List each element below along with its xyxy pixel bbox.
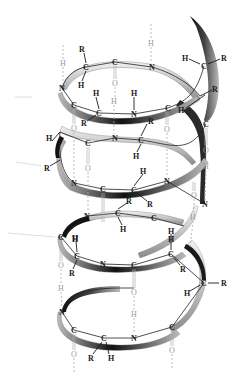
carbon-atom: C xyxy=(112,58,118,67)
side-chain-r: R xyxy=(180,265,186,274)
carbon-atom: C xyxy=(85,139,91,148)
carbon-atom: C xyxy=(83,63,89,72)
carbon-atom: C xyxy=(96,109,102,118)
carbon-atom: C xyxy=(203,120,209,129)
carbon-atom: C xyxy=(201,62,207,71)
oxygen-atom: O xyxy=(169,346,175,355)
carbon-atom: C xyxy=(71,101,77,110)
side-chain-r: R xyxy=(221,279,227,288)
carbon-atom: C xyxy=(131,261,137,270)
hydrogen-atom: H xyxy=(120,225,127,234)
oxygen-atom: O xyxy=(85,164,91,173)
carbon-atom: C xyxy=(100,185,106,194)
nitrogen-atom: N xyxy=(131,334,137,343)
oxygen-atom: O xyxy=(58,261,64,270)
hydrogen-atom: H xyxy=(182,54,189,63)
hydrogen-atom: H xyxy=(203,162,209,171)
side-chain-r: R xyxy=(79,45,85,54)
oxygen-atom: O xyxy=(71,350,77,359)
nitrogen-atom: N xyxy=(164,177,170,186)
oxygen-atom: O xyxy=(71,124,77,133)
oxygen-atom: O xyxy=(203,146,209,155)
oxygen-atom: O xyxy=(164,125,170,134)
nitrogen-atom: N xyxy=(59,84,65,93)
carbon-atom: C xyxy=(115,209,121,218)
carbon-atom: C xyxy=(101,334,107,343)
hydrogen-atom: H xyxy=(131,310,137,319)
nitrogen-atom: N xyxy=(202,200,208,209)
carbon-atom: C xyxy=(151,214,157,223)
carbon-atom: C xyxy=(58,233,64,242)
hydrogen-atom: H xyxy=(140,167,147,176)
side-chain-r: R xyxy=(126,197,132,206)
hydrogen-atom: H xyxy=(184,289,191,298)
carbon-atom: C xyxy=(74,252,80,261)
nitrogen-atom: N xyxy=(59,308,65,317)
hydrogen-atom: H xyxy=(78,81,85,90)
side-chain-r: R xyxy=(44,164,50,173)
oxygen-atom: O xyxy=(191,191,197,200)
hydrogen-atom: H xyxy=(131,89,138,98)
nitrogen-atom: N xyxy=(100,260,106,269)
carbon-atom: C xyxy=(168,250,174,259)
side-chain-r: R xyxy=(148,117,154,126)
side-chain-r: R xyxy=(221,54,227,63)
side-chain-r: R xyxy=(88,354,94,363)
side-chain-r: R xyxy=(69,269,75,278)
helix-canvas: HRCHCOHNHCRNCHCRHHNRCHRCOOHCNCHROOHNHNCC… xyxy=(0,0,242,387)
hydrogen-atom: H xyxy=(111,97,117,106)
carbon-atom: C xyxy=(138,136,144,145)
alpha-helix-diagram: HRCHCOHNHCRNCHCRHHNRCHRCOOHCNCHROOHNHNCC… xyxy=(0,0,242,387)
nitrogen-atom: N xyxy=(71,179,77,188)
carbon-atom: C xyxy=(131,186,137,195)
carbon-atom: C xyxy=(169,323,175,332)
nitrogen-atom: N xyxy=(131,110,137,119)
side-chain-r: R xyxy=(147,200,153,209)
nitrogen-atom: N xyxy=(112,134,118,143)
carbon-atom: C xyxy=(71,326,77,335)
hydrogen-atom: H xyxy=(72,235,79,244)
carbon-atom: C xyxy=(165,104,171,113)
hydrogen-atom: H xyxy=(178,106,185,115)
hydrogen-atom: H xyxy=(93,89,100,98)
side-chain-r: R xyxy=(81,119,87,128)
hydrogen-atom: H xyxy=(148,39,154,48)
oxygen-atom: O xyxy=(112,79,118,88)
hydrogen-atom: H xyxy=(46,134,53,143)
carbon-atom: C xyxy=(201,279,207,288)
hydrogen-atom: H xyxy=(58,284,64,293)
oxygen-atom: O xyxy=(131,288,137,297)
hydrogen-atom: H xyxy=(60,59,66,68)
nitrogen-atom: N xyxy=(84,212,90,221)
hydrogen-atom: H xyxy=(108,354,115,363)
hydrogen-atom: H xyxy=(168,235,175,244)
hydrogen-atom: H xyxy=(190,213,196,222)
hydrogen-atom: H xyxy=(133,152,140,161)
nitrogen-atom: N xyxy=(149,63,155,72)
side-chain-r: R xyxy=(212,85,218,94)
